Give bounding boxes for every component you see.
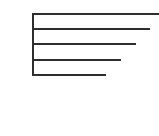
branch-diagram xyxy=(0,0,159,136)
branch-line-1 xyxy=(32,13,159,15)
branch-line-4 xyxy=(32,59,121,61)
branch-line-2 xyxy=(32,28,150,30)
branch-line-3 xyxy=(32,43,136,45)
branch-line-5 xyxy=(32,74,106,76)
